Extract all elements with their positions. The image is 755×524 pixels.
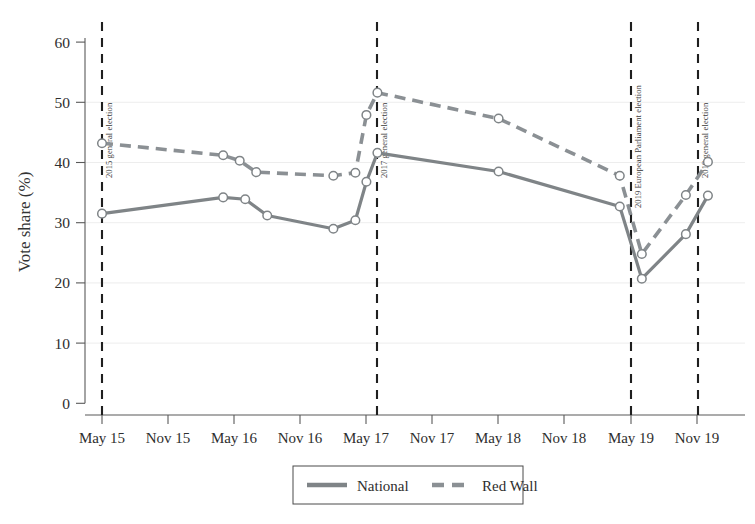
data-point: [329, 171, 338, 180]
gridlines: [85, 102, 745, 343]
x-axis: May 15 Nov 15 May 16 Nov 16 May 17 Nov 1…: [79, 415, 745, 446]
data-point: [98, 209, 107, 218]
y-tick-label-60: 60: [55, 34, 71, 51]
data-point: [615, 202, 624, 211]
data-point: [252, 168, 261, 177]
y-tick-label-30: 30: [55, 214, 71, 231]
data-point: [351, 168, 360, 177]
data-point: [98, 139, 107, 148]
data-point: [704, 191, 713, 200]
data-point: [351, 216, 360, 225]
data-point: [494, 114, 503, 123]
chart-legend: National Red Wall: [293, 466, 538, 504]
data-series-layer: [98, 88, 713, 283]
data-point: [615, 171, 624, 180]
x-tick-label-may15: May 15: [79, 430, 125, 446]
y-tick-label-10: 10: [55, 335, 71, 352]
x-tick-label-nov15: Nov 15: [146, 430, 191, 446]
y-tick-label-0: 0: [62, 395, 70, 412]
chart-figure: 60 50 40 30 20 10 0 Vote share (%) May 1…: [0, 0, 755, 524]
data-point: [682, 191, 691, 200]
x-tick-label-may19: May 19: [608, 430, 654, 446]
x-tick-label-may18: May 18: [475, 430, 521, 446]
y-tick-label-50: 50: [55, 94, 71, 111]
data-point: [704, 158, 713, 167]
legend-label-national: National: [357, 478, 409, 494]
data-point: [219, 193, 228, 202]
data-point: [263, 211, 272, 220]
data-point: [362, 111, 371, 120]
y-axis-title: Vote share (%): [15, 172, 34, 273]
data-point: [682, 230, 691, 239]
x-tick-label-may17: May 17: [343, 430, 390, 446]
data-point: [362, 177, 371, 186]
x-tick-label-nov16: Nov 16: [278, 430, 323, 446]
y-tick-label-20: 20: [55, 274, 71, 291]
x-tick-label-nov19: Nov 19: [675, 430, 720, 446]
data-point: [373, 149, 382, 158]
vline-label-2017-general-election: 2017 general election: [379, 102, 389, 178]
x-tick-label-nov18: Nov 18: [542, 430, 587, 446]
vline-label-2019-european-parliament-election: 2019 European Parliament election: [633, 84, 643, 208]
data-point: [219, 151, 228, 160]
data-point: [235, 156, 244, 165]
data-point: [329, 224, 338, 233]
legend-label-red-wall: Red Wall: [482, 478, 538, 494]
data-point: [241, 195, 250, 204]
vote-share-line-chart: 60 50 40 30 20 10 0 Vote share (%) May 1…: [0, 0, 755, 524]
data-point: [638, 250, 647, 259]
data-point: [373, 88, 382, 97]
x-tick-label-nov17: Nov 17: [410, 430, 455, 446]
y-tick-label-40: 40: [55, 154, 71, 171]
event-vlines: 2015 general election 2017 general elect…: [102, 22, 710, 415]
y-axis: 60 50 40 30 20 10 0 Vote share (%): [15, 34, 85, 412]
data-point: [494, 167, 503, 176]
data-point: [638, 274, 647, 283]
x-tick-label-may16: May 16: [211, 430, 258, 446]
